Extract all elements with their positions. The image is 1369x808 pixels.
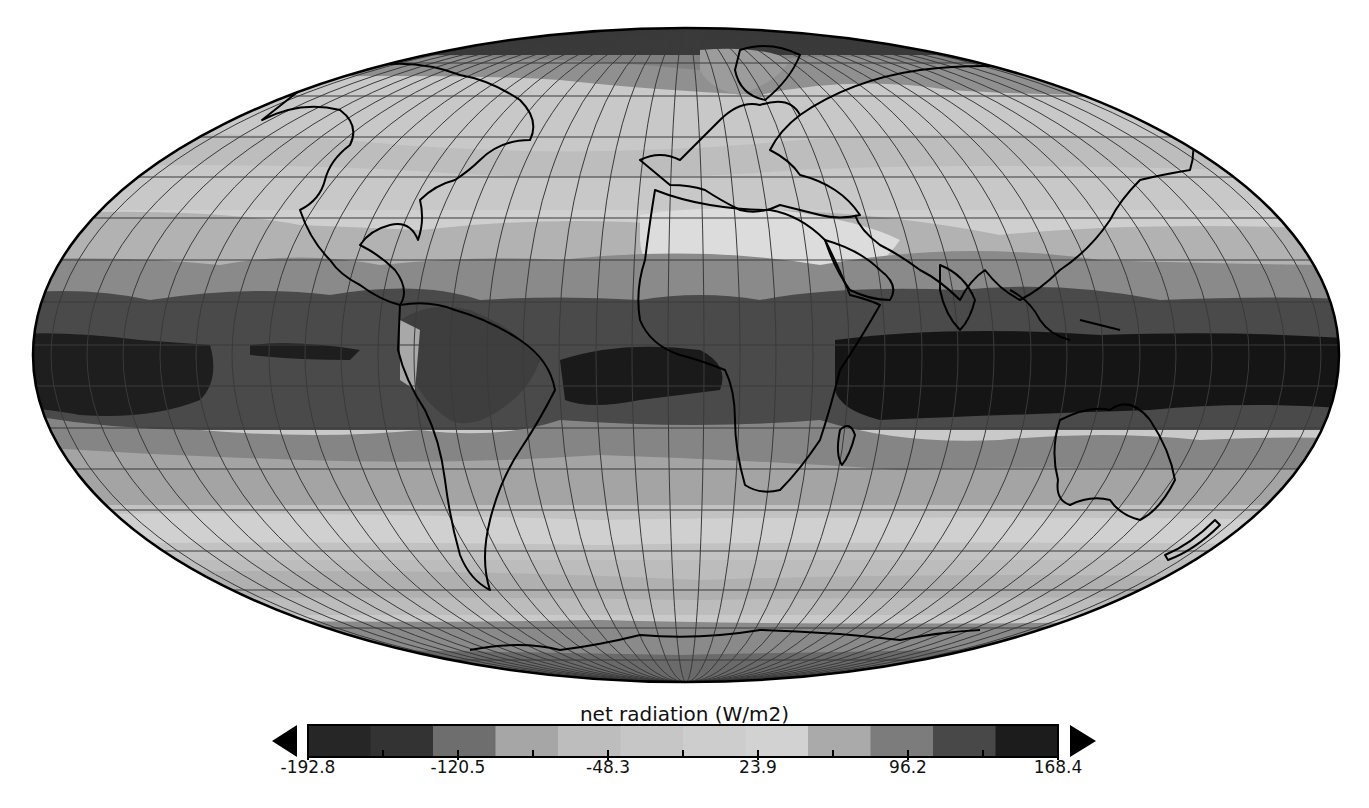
colorbar-extend-min-icon [272, 725, 297, 757]
colorbar-bin [371, 725, 434, 757]
colorbar-bin [496, 725, 559, 757]
colorbar-tick-label: 23.9 [739, 757, 777, 777]
colorbar-tick-label: 168.4 [1034, 757, 1083, 777]
colorbar-bin [308, 725, 371, 757]
colorbar-tick-label: -48.3 [586, 757, 630, 777]
colorbar-extend-max-icon [1070, 725, 1096, 757]
colorbar-bin [746, 725, 809, 757]
colorbar-bar [0, 720, 1369, 760]
colorbar-tick-label: -120.5 [431, 757, 486, 777]
colorbar-bin [871, 725, 934, 757]
colorbar-bin [996, 725, 1059, 757]
colorbar-bin [621, 725, 684, 757]
colorbar-bin [558, 725, 621, 757]
colorbar-bin [933, 725, 996, 757]
colorbar-bin [808, 725, 871, 757]
colorbar-bin [433, 725, 496, 757]
colorbar-bin [683, 725, 746, 757]
world-map [0, 0, 1369, 700]
radiation-field [0, 0, 1369, 700]
colorbar-tick-label: 96.2 [889, 757, 927, 777]
colorbar-tick-label: -192.8 [281, 757, 336, 777]
